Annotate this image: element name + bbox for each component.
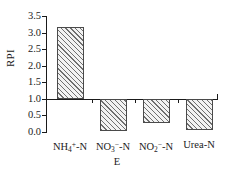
y-tick-mark (42, 16, 47, 17)
x-axis-title: E (0, 156, 234, 167)
x-tick-mark (92, 99, 93, 103)
y-tick: 2.0 (46, 66, 51, 67)
y-tick: 1.5 (46, 82, 51, 83)
y-tick-label: 0.5 (28, 108, 41, 121)
baseline-end-tick (217, 94, 218, 99)
y-tick: 0.5 (46, 115, 51, 116)
plot-area: 0.00.51.01.52.02.53.03.5 (46, 10, 222, 138)
bar (100, 99, 127, 131)
y-tick-mark (42, 132, 47, 133)
bar (57, 27, 84, 99)
y-tick-label: 0.0 (28, 125, 41, 138)
y-axis-title: RPI (4, 36, 16, 80)
x-tick-label: NO3−-N (92, 138, 135, 156)
y-tick-label: 3.0 (28, 26, 41, 39)
y-tick-mark (42, 49, 47, 50)
y-tick: 2.5 (46, 49, 51, 50)
y-tick-label: 2.0 (28, 59, 41, 72)
y-tick-mark (42, 82, 47, 83)
y-tick-mark (42, 33, 47, 34)
x-tick-label: NO2−-N (135, 138, 178, 156)
x-tick-label: Urea-N (178, 138, 221, 151)
y-tick-label: 3.5 (28, 9, 41, 22)
y-tick-label: 1.5 (28, 75, 41, 88)
bar (186, 99, 213, 130)
y-tick-label: 1.0 (28, 92, 41, 105)
x-axis-tick-labels: NH4+-NNO3−-NNO2−-NUrea-N (46, 138, 226, 154)
y-tick-label: 2.5 (28, 42, 41, 55)
y-tick: 3.5 (46, 16, 51, 17)
x-tick-label: NH4+-N (49, 138, 92, 156)
y-tick-mark (42, 115, 47, 116)
bar (143, 99, 170, 123)
x-tick-mark (135, 99, 136, 103)
y-tick: 3.0 (46, 33, 51, 34)
y-tick-mark (42, 66, 47, 67)
bar-chart-figure: RPI 0.00.51.01.52.02.53.03.5 NH4+-NNO3−-… (0, 0, 234, 173)
y-tick: 0.0 (46, 132, 51, 133)
x-tick-mark (178, 99, 179, 103)
